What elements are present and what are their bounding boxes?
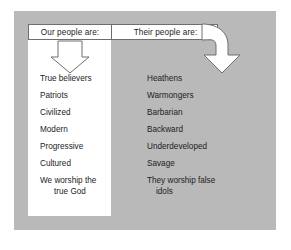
list-item-line2: idols <box>147 186 215 197</box>
their-people-header: Their people are: <box>112 25 219 39</box>
list-item: Modern <box>28 121 111 138</box>
our-people-header: Our people are: <box>29 25 111 39</box>
list-item: Warmongers <box>130 87 248 104</box>
list-item: Progressive <box>28 138 111 155</box>
list-item: Barbarian <box>130 104 248 121</box>
list-item-line1: We worship the <box>40 176 96 185</box>
list-item: They worship falseidols <box>130 172 248 205</box>
list-item: We worship thetrue God <box>28 172 111 205</box>
list-item: True believers <box>28 70 111 87</box>
header-bar: Our people are: Their people are: <box>28 24 218 40</box>
figure-root: Our people are: Their people are: True b… <box>0 0 291 250</box>
list-item: Savage <box>130 155 248 172</box>
our-people-list: True believers Patriots Civilized Modern… <box>28 70 111 205</box>
their-people-list: Heathens Warmongers Barbarian Backward U… <box>130 70 248 205</box>
list-item-line1: They worship false <box>147 176 215 185</box>
list-item: Heathens <box>130 70 248 87</box>
list-item: Backward <box>130 121 248 138</box>
list-item: Cultured <box>28 155 111 172</box>
list-item: Civilized <box>28 104 111 121</box>
list-item: Patriots <box>28 87 111 104</box>
list-item: Underdeveloped <box>130 138 248 155</box>
list-item-line2: true God <box>40 186 96 197</box>
